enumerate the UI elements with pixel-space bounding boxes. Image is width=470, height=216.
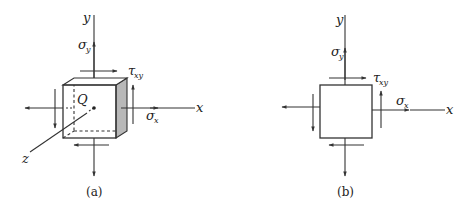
x-axis-label-a: x [196, 100, 204, 115]
sigma-y-label-a: σ y [78, 37, 91, 54]
origin-point-a [92, 106, 96, 110]
sigma-y-label-b: σ y [331, 44, 344, 61]
figure-a [25, 15, 195, 176]
hidden-edge-a [63, 131, 74, 138]
stress-element-diagram: y x z Q σ y σ x τ xy (a) y x σ y [0, 0, 470, 216]
sigma-x-label-b: σ x [396, 93, 409, 110]
z-axis-label-a: z [21, 151, 29, 166]
y-axis-label-a: y [82, 10, 91, 25]
svg-text:y: y [85, 45, 91, 54]
svg-text:xy: xy [134, 71, 144, 80]
tau-xy-label-b: τ xy [373, 70, 389, 87]
element-square-b [320, 85, 372, 138]
top-face-a [63, 78, 127, 85]
z-axis-a [30, 113, 87, 152]
svg-text:x: x [154, 116, 159, 125]
caption-a: (a) [86, 185, 103, 199]
y-axis-label-b: y [335, 12, 344, 27]
front-face-a [63, 85, 116, 138]
x-axis-label-b: x [446, 102, 454, 117]
tau-xy-label-a: τ xy [128, 63, 144, 80]
svg-text:y: y [338, 52, 344, 61]
sigma-x-label-a: σ x [146, 108, 159, 125]
svg-text:xy: xy [379, 78, 389, 87]
origin-label-a: Q [77, 92, 88, 107]
caption-b: (b) [337, 185, 354, 199]
figure-b [282, 15, 445, 176]
svg-text:x: x [404, 101, 409, 110]
